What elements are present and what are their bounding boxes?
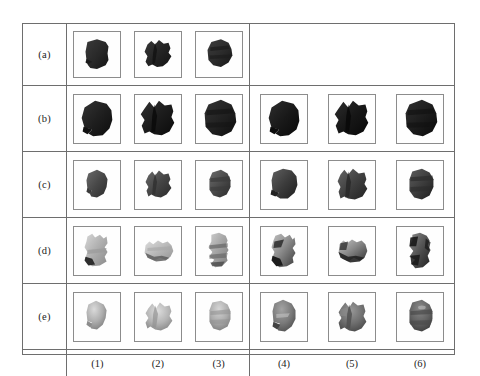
table-row: (a) — [23, 24, 454, 86]
shape-panel-e2[interactable] — [134, 292, 182, 342]
shape-panel-e4[interactable] — [260, 292, 308, 342]
cell-b4[interactable] — [257, 86, 312, 151]
cell-d5[interactable] — [325, 218, 380, 283]
cell-c3[interactable] — [191, 152, 246, 217]
shape-panel-c4[interactable] — [260, 160, 308, 210]
row-label-e: (e) — [23, 284, 67, 349]
shape-panel-b3[interactable] — [195, 94, 243, 144]
shape-panel-d5[interactable] — [328, 226, 376, 276]
column-group-right — [250, 284, 454, 349]
shape-panel-c5[interactable] — [328, 160, 376, 210]
row-label-b: (b) — [23, 86, 67, 151]
shape-panel-e5[interactable] — [328, 292, 376, 342]
cell-e6[interactable] — [393, 284, 448, 349]
shape-render-icon — [261, 95, 307, 143]
cell-b5[interactable] — [325, 86, 380, 151]
cell-e1[interactable] — [70, 284, 125, 349]
cell-d3[interactable] — [191, 218, 246, 283]
table-row: (e) — [23, 284, 454, 350]
cell-d6[interactable] — [393, 218, 448, 283]
shape-render-icon — [196, 95, 242, 143]
cell-c2[interactable] — [130, 152, 185, 217]
shape-panel-a2[interactable] — [134, 31, 182, 78]
table-row: (d) — [23, 218, 454, 284]
shape-render-icon — [135, 95, 181, 143]
cell-c6[interactable] — [393, 152, 448, 217]
shape-panel-d6[interactable] — [396, 226, 444, 276]
shape-render-icon — [397, 293, 443, 341]
column-label-3: (3) — [191, 358, 246, 369]
column-group-left — [67, 152, 250, 217]
caption-group-left: (1) (2) (3) — [67, 350, 250, 376]
cell-e2[interactable] — [130, 284, 185, 349]
shape-panel-c3[interactable] — [195, 160, 243, 210]
shape-panel-d2[interactable] — [134, 226, 182, 276]
row-label-d: (d) — [23, 218, 67, 283]
shape-render-icon — [74, 161, 120, 209]
shape-render-icon — [74, 293, 120, 341]
shape-render-icon — [196, 293, 242, 341]
shape-render-icon — [397, 161, 443, 209]
shape-render-icon — [261, 227, 307, 275]
shape-render-icon — [397, 227, 443, 275]
shape-panel-d3[interactable] — [195, 226, 243, 276]
shape-panel-a1[interactable] — [73, 31, 121, 78]
row-cells — [67, 152, 454, 217]
cell-a3[interactable] — [191, 24, 246, 85]
cell-c4[interactable] — [257, 152, 312, 217]
shape-render-icon — [135, 32, 181, 77]
column-group-right — [250, 86, 454, 151]
cell-c1[interactable] — [70, 152, 125, 217]
table-row: (b) — [23, 86, 454, 152]
shape-render-icon — [329, 293, 375, 341]
shape-panel-c1[interactable] — [73, 160, 121, 210]
shape-panel-a5-empty — [328, 31, 376, 78]
cell-b6[interactable] — [393, 86, 448, 151]
cell-b1[interactable] — [70, 86, 125, 151]
shape-panel-c2[interactable] — [134, 160, 182, 210]
cell-a1[interactable] — [70, 24, 125, 85]
column-group-left — [67, 218, 250, 283]
row-cells — [67, 218, 454, 283]
cell-a2[interactable] — [130, 24, 185, 85]
shape-panel-e6[interactable] — [396, 292, 444, 342]
shape-panel-d4[interactable] — [260, 226, 308, 276]
row-label-a: (a) — [23, 24, 67, 85]
results-grid-table: (a) — [22, 23, 455, 355]
shape-render-icon — [74, 227, 120, 275]
cell-e4[interactable] — [257, 284, 312, 349]
row-cells — [67, 284, 454, 349]
shape-render-icon — [329, 227, 375, 275]
caption-group-right: (4) (5) (6) — [250, 350, 454, 376]
cell-e5[interactable] — [325, 284, 380, 349]
cell-d2[interactable] — [130, 218, 185, 283]
shape-panel-e1[interactable] — [73, 292, 121, 342]
shape-panel-d1[interactable] — [73, 226, 121, 276]
shape-panel-b1[interactable] — [73, 94, 121, 144]
shape-panel-e3[interactable] — [195, 292, 243, 342]
shape-panel-a3[interactable] — [195, 31, 243, 78]
cell-d4[interactable] — [257, 218, 312, 283]
shape-panel-b4[interactable] — [260, 94, 308, 144]
column-label-row: (1) (2) (3) (4) (5) (6) — [23, 350, 454, 376]
cell-b2[interactable] — [130, 86, 185, 151]
shape-render-icon — [74, 32, 120, 77]
cell-c5[interactable] — [325, 152, 380, 217]
shape-render-icon — [74, 95, 120, 143]
cell-b3[interactable] — [191, 86, 246, 151]
row-label-text: (a) — [38, 49, 50, 60]
column-label-1: (1) — [70, 358, 125, 369]
shape-render-icon — [397, 95, 443, 143]
shape-panel-b2[interactable] — [134, 94, 182, 144]
cell-e3[interactable] — [191, 284, 246, 349]
cell-a4 — [257, 24, 312, 85]
cell-a6 — [393, 24, 448, 85]
cell-d1[interactable] — [70, 218, 125, 283]
shape-panel-c6[interactable] — [396, 160, 444, 210]
column-group-left — [67, 284, 250, 349]
shape-panel-b5[interactable] — [328, 94, 376, 144]
shape-panel-b6[interactable] — [396, 94, 444, 144]
table-row: (c) — [23, 152, 454, 218]
shape-render-icon — [135, 161, 181, 209]
shape-render-icon — [261, 293, 307, 341]
